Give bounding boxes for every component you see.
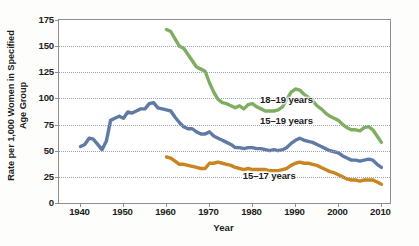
x-tick-label: 2000: [327, 206, 348, 217]
gridline: [59, 125, 390, 126]
x-tick-label: 1960: [155, 206, 176, 217]
gridline: [59, 98, 390, 99]
x-tick-label: 2010: [370, 206, 391, 217]
x-tick-label: 1980: [241, 206, 262, 217]
series-label: 15–19 years: [260, 115, 313, 126]
series-lines: [59, 20, 390, 203]
x-axis-title: Year: [58, 222, 389, 233]
x-tick-label: 1970: [198, 206, 219, 217]
gridline: [59, 177, 390, 178]
y-tick-label: 50: [28, 144, 54, 155]
y-tick-label: 175: [28, 14, 54, 25]
y-tick-label: 75: [28, 118, 54, 129]
y-tick-mark: [55, 20, 59, 21]
y-tick-label: 150: [28, 40, 54, 51]
gridline: [59, 46, 390, 47]
y-tick-mark: [55, 151, 59, 152]
y-tick-mark: [55, 177, 59, 178]
y-tick-label: 125: [28, 66, 54, 77]
series-label: 18–19 years: [260, 94, 313, 105]
plot-area: [58, 19, 391, 204]
chart-container: Rate per 1,000 Women in Specified Age Gr…: [0, 0, 419, 246]
y-tick-mark: [55, 125, 59, 126]
y-tick-label: 25: [28, 170, 54, 181]
x-tick-label: 1950: [112, 206, 133, 217]
y-tick-mark: [55, 203, 59, 204]
y-tick-mark: [55, 46, 59, 47]
x-tick-label: 1990: [284, 206, 305, 217]
y-tick-label: 100: [28, 92, 54, 103]
y-axis-title-line1: Rate per 1,000 Women in Specified: [6, 30, 18, 181]
series-label: 15–17 years: [243, 170, 296, 181]
x-tick-label: 1940: [69, 206, 90, 217]
gridline: [59, 72, 390, 73]
y-tick-label: 0: [28, 197, 54, 208]
y-tick-mark: [55, 72, 59, 73]
plot-inner: [59, 20, 390, 203]
y-axis-tick-labels: 0255075100125150175: [26, 0, 54, 246]
gridline: [59, 151, 390, 152]
y-tick-mark: [55, 98, 59, 99]
series-line: [80, 103, 381, 168]
